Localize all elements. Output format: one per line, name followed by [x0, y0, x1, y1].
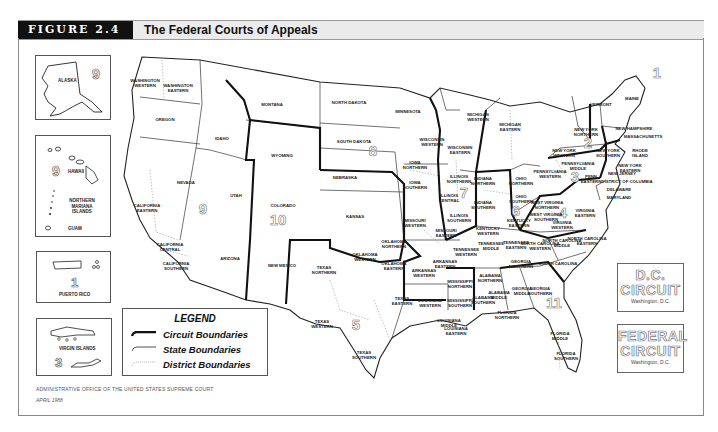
district-label: ALABAMANORTHERN	[478, 273, 502, 283]
legend-circuit-label: Circuit Boundaries	[163, 329, 248, 340]
district-label: MAINE	[625, 96, 639, 101]
district-label: CALIFORNIASOUTHERN	[163, 261, 190, 271]
district-label: SOUTH DAKOTA	[337, 139, 371, 144]
district-label: MISSISSIPPISOUTHERN	[447, 298, 473, 308]
legend-title: LEGEND	[123, 313, 267, 324]
district-label: WISCONSINEASTERN	[448, 145, 473, 155]
federal-circuit-box: FEDERAL CIRCUIT Washington, D.C.	[617, 324, 684, 373]
circuit-number-1: 1	[653, 64, 661, 81]
district-label: VERMONT	[590, 102, 612, 107]
dc-circuit-box: D.C. CIRCUIT Washington, D.C.	[617, 263, 684, 312]
district-label: NEW YORKSOUTHERN	[596, 148, 621, 158]
circuit-number-7: 7	[460, 184, 468, 201]
district-label: ARIZONA	[220, 256, 240, 261]
district-label: ILLINOISSOUTHERN	[447, 213, 471, 223]
dc-circuit-line1: D.C.	[618, 268, 683, 283]
district-label: LOUISIANAEASTERN	[444, 326, 468, 336]
district-label: FLORIDANORTHERN	[495, 310, 519, 320]
district-label: IDAHO	[215, 136, 230, 141]
district-label: ILLINOISCENTRAL	[439, 193, 460, 203]
district-label: NEVADA	[177, 180, 195, 185]
district-label: FLORIDAMIDDLE	[550, 331, 569, 341]
district-label: INDIANASOUTHERN	[471, 200, 495, 210]
district-label: COLORADO	[270, 203, 296, 208]
date-note: APRIL 1988	[36, 397, 63, 403]
district-label: DISTRICT OF COLUMBIA	[601, 179, 652, 184]
district-label: NORTH DAKOTA	[332, 100, 367, 105]
district-label: MISSOURIWESTERN	[404, 218, 426, 228]
district-label: INDIANANORTHERN	[471, 176, 495, 186]
district-label: NEW YORKNORTHERN	[574, 127, 599, 137]
legend-state-label: State Boundaries	[163, 344, 241, 355]
district-label: OKLAHOMANORTHERN	[381, 239, 406, 249]
district-label: KENTUCKYWESTERN	[476, 226, 500, 236]
federal-circuit-line1: FEDERAL	[618, 329, 683, 344]
circuit-number-10: 10	[270, 211, 287, 228]
district-label: KANSAS	[346, 214, 364, 219]
us-map: 1234567891011 WASHINGTONWESTERNWASHINGTO…	[0, 0, 718, 432]
district-label: RHODEISLAND	[632, 148, 648, 158]
district-label: SOUTH CAROLINA	[539, 261, 578, 266]
district-label: GEORGIASOUTHERN	[528, 286, 552, 296]
federal-circuit-line2: CIRCUIT	[618, 344, 683, 359]
district-label: ILLINOISNORTHERN	[447, 174, 471, 184]
district-label: MINNESOTA	[395, 109, 420, 114]
district-label: NEW YORKWESTERN	[552, 148, 576, 158]
district-label: OKLAHOMAEASTERN	[381, 261, 406, 271]
thin-line-icon	[131, 346, 157, 352]
district-label: NEW HAMPSHIRE	[615, 126, 652, 131]
district-label: CALIFORNIAEASTERN	[134, 203, 161, 213]
district-label: WISCONSINWESTERN	[420, 137, 445, 147]
circuit-number-6: 6	[512, 202, 520, 219]
dc-circuit-line2: CIRCUIT	[618, 283, 683, 298]
district-label: DELAWARE	[607, 187, 631, 192]
district-label: VIRGINIAEASTERN	[575, 208, 596, 218]
source-note: ADMINISTRATIVE OFFICE OF THE UNITED STAT…	[36, 386, 213, 392]
district-label: WASHINGTONWESTERN	[130, 78, 160, 88]
district-label: NEBRASKA	[333, 175, 357, 180]
district-label: MARYLAND	[607, 195, 631, 200]
district-label: WYOMING	[271, 153, 293, 158]
district-label: MISSOURIEASTERN	[435, 228, 456, 238]
legend-circuit: Circuit Boundaries	[131, 327, 248, 341]
district-label: MISSISSIPPINORTHERN	[447, 279, 473, 289]
district-label: UTAH	[230, 193, 242, 198]
district-label: MONTANA	[261, 102, 283, 107]
district-label: WEST VIRGINIASOUTHERN	[530, 212, 563, 222]
district-label: ALABAMASOUTHERN	[471, 295, 495, 305]
district-label: NEW MEXICO	[268, 263, 297, 268]
district-label: WEST VIRGINIANORTHERN	[531, 200, 564, 210]
legend-district: District Boundaries	[131, 357, 251, 371]
district-label: ARKANSASWESTERN	[412, 268, 436, 278]
district-label: MASSACHUSETTS	[624, 134, 663, 139]
dc-circuit-location: Washington, D.C.	[618, 298, 683, 304]
legend-state: State Boundaries	[131, 342, 241, 356]
circuit-number-11: 11	[546, 294, 562, 311]
district-label: MICHIGANWESTERN	[467, 112, 489, 122]
dotted-line-icon	[131, 361, 157, 367]
district-label: NEW JERSEY	[608, 171, 636, 176]
district-label: OKLAHOMAWESTERN	[352, 252, 377, 262]
circuit-number-8: 8	[369, 142, 377, 159]
district-label: GEORGIANORTHERN	[509, 259, 533, 269]
district-label: MICHIGANEASTERN	[499, 122, 521, 132]
thick-line-icon	[131, 331, 157, 337]
legend-district-label: District Boundaries	[163, 359, 251, 370]
circuit-number-9: 9	[199, 200, 207, 217]
district-label: LOUISIANAWESTERN	[418, 298, 442, 308]
legend: LEGEND Circuit Boundaries State Boundari…	[122, 308, 268, 376]
district-label: OREGON	[155, 117, 174, 122]
district-label: ARKANSASEASTERN	[433, 259, 457, 269]
circuit-number-5: 5	[352, 316, 360, 333]
district-label: KENTUCKYEASTERN	[507, 218, 531, 228]
district-label: CALIFORNIACENTRAL	[157, 242, 184, 252]
district-label: FLORIDASOUTHERN	[554, 351, 578, 361]
district-label: TENNESSEEWESTERN	[453, 247, 479, 257]
federal-circuit-location: Washington, D.C.	[618, 359, 683, 365]
